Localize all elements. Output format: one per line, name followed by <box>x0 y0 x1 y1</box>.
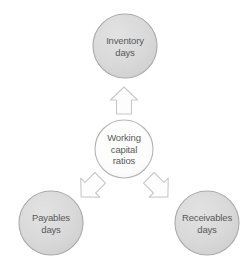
node-circle-receivables-days <box>175 191 239 255</box>
node-circle-payables-days <box>19 191 83 255</box>
working-capital-ratios-diagram: Inventory days Working capital ratios Pa… <box>0 0 246 272</box>
diagram-shapes-layer <box>0 0 246 272</box>
node-circle-inventory-days <box>93 14 157 78</box>
arrow-to-inventory-icon <box>111 87 138 114</box>
node-circle-working-capital-ratios <box>95 120 153 178</box>
arrow-to-payables-icon <box>72 168 110 206</box>
arrow-to-receivables-icon <box>139 168 177 206</box>
